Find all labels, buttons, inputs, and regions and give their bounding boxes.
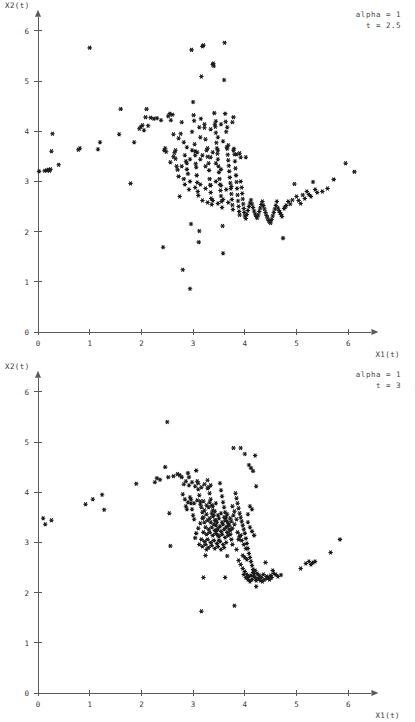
data-point-marker — [194, 531, 198, 535]
data-point-marker — [235, 501, 239, 505]
y-tick-label: 2 — [24, 589, 29, 598]
data-point-marker — [166, 475, 170, 479]
data-point-marker — [203, 137, 207, 141]
data-point-marker — [227, 164, 231, 168]
data-point-marker — [187, 475, 191, 479]
data-point-marker — [238, 563, 242, 567]
data-point-marker — [186, 172, 190, 176]
data-point-marker — [303, 196, 307, 200]
data-point-marker — [169, 118, 173, 122]
data-point-marker — [155, 116, 159, 120]
data-point-marker — [205, 478, 209, 482]
data-point-marker — [216, 135, 220, 139]
y-tick-label: 3 — [24, 177, 29, 186]
data-point-marker — [230, 542, 234, 546]
data-point-marker — [250, 529, 254, 533]
data-point-marker — [224, 130, 228, 134]
x-axis-arrow-icon — [371, 329, 378, 335]
x-tick-label: 0 — [36, 700, 41, 709]
data-point-marker — [251, 206, 255, 210]
data-point-marker — [223, 576, 227, 580]
data-point-marker — [220, 224, 224, 228]
data-point-marker — [225, 554, 229, 558]
data-point-marker — [161, 245, 165, 249]
x-tick-label: 4 — [243, 339, 248, 348]
data-point-marker — [304, 562, 308, 566]
data-point-marker — [132, 140, 136, 144]
data-point-marker — [174, 164, 178, 168]
data-point-marker — [338, 537, 342, 541]
data-points-group — [37, 41, 357, 291]
data-point-marker — [220, 206, 224, 210]
data-point-marker — [50, 132, 54, 136]
data-point-marker — [189, 222, 193, 226]
data-point-marker — [240, 191, 244, 195]
data-point-marker — [242, 207, 246, 211]
data-point-marker — [171, 474, 175, 478]
data-point-marker — [262, 207, 266, 211]
data-point-marker — [199, 75, 203, 79]
data-point-marker — [207, 168, 211, 172]
data-point-marker — [239, 185, 243, 189]
data-point-marker — [198, 182, 202, 186]
data-point-marker — [220, 494, 224, 498]
data-point-marker — [236, 558, 240, 562]
data-point-marker — [199, 117, 203, 121]
data-point-marker — [215, 152, 219, 156]
data-point-marker — [100, 493, 104, 497]
data-point-marker — [250, 564, 254, 568]
data-points-group — [41, 420, 342, 613]
data-point-marker — [249, 559, 253, 563]
y-tick-label: 3 — [24, 538, 29, 547]
data-point-marker — [214, 131, 218, 135]
data-point-marker — [227, 169, 231, 173]
data-point-marker — [328, 550, 332, 554]
data-point-marker — [208, 127, 212, 131]
data-point-marker — [193, 162, 197, 166]
data-point-marker — [190, 130, 194, 134]
data-point-marker — [195, 180, 199, 184]
data-point-marker — [244, 155, 248, 159]
data-point-marker — [200, 544, 204, 548]
data-point-marker — [194, 165, 198, 169]
y-axis-arrow-icon — [35, 371, 41, 378]
data-point-marker — [230, 197, 234, 201]
data-point-marker — [191, 100, 195, 104]
x-tick-label: 1 — [87, 339, 92, 348]
data-point-marker — [197, 542, 201, 546]
data-point-marker — [198, 521, 202, 525]
data-point-marker — [290, 198, 294, 202]
y-axis-arrow-icon — [35, 10, 41, 17]
y-tick-label: 1 — [24, 639, 29, 648]
data-point-marker — [275, 200, 279, 204]
data-point-marker — [214, 179, 218, 183]
data-point-marker — [186, 471, 190, 475]
data-point-marker — [271, 214, 275, 218]
data-point-marker — [257, 210, 261, 214]
data-point-marker — [183, 153, 187, 157]
data-point-marker — [231, 115, 235, 119]
data-point-marker — [238, 515, 242, 519]
data-point-marker — [247, 205, 251, 209]
data-point-marker — [332, 177, 336, 181]
data-point-marker — [183, 182, 187, 186]
data-point-marker — [144, 107, 148, 111]
data-point-marker — [181, 492, 185, 496]
data-point-marker — [203, 553, 207, 557]
data-point-marker — [56, 163, 60, 167]
data-point-marker — [223, 112, 227, 116]
data-point-marker — [142, 128, 146, 132]
data-point-marker — [191, 513, 195, 517]
y-tick-label: 6 — [24, 388, 29, 397]
data-point-marker — [196, 193, 200, 197]
data-point-marker — [195, 173, 199, 177]
data-point-marker — [83, 502, 87, 506]
data-point-marker — [230, 504, 234, 508]
data-point-marker — [235, 193, 239, 197]
data-point-marker — [226, 153, 230, 157]
data-point-marker — [226, 201, 230, 205]
x-tick-label: 4 — [243, 700, 248, 709]
data-point-marker — [263, 561, 267, 565]
data-point-marker — [187, 187, 191, 191]
data-point-marker — [119, 107, 123, 111]
